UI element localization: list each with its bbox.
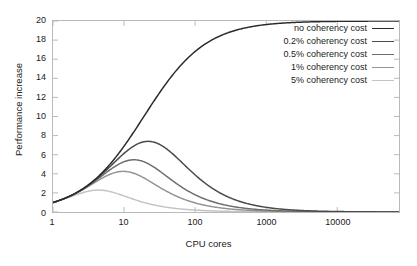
chart-legend: no coherency cost0.2% coherency cost0.5%… xyxy=(246,22,394,87)
series-line xyxy=(53,160,399,212)
y-tick-label: 0 xyxy=(0,209,46,218)
legend-item-label: 5% coherency cost xyxy=(291,76,367,85)
legend-item-swatch xyxy=(372,24,394,33)
y-tick-label: 4 xyxy=(0,170,46,179)
legend-item-swatch xyxy=(372,37,394,46)
y-tick-label: 18 xyxy=(0,35,46,44)
legend-item-swatch xyxy=(372,63,394,72)
legend-item: 5% coherency cost xyxy=(246,74,394,87)
legend-item: 0.5% coherency cost xyxy=(246,48,394,61)
legend-item: 0.2% coherency cost xyxy=(246,35,394,48)
y-tick-label: 14 xyxy=(0,73,46,82)
x-tick-label: 10 xyxy=(103,218,143,227)
y-tick-label: 6 xyxy=(0,151,46,160)
y-tick-label: 10 xyxy=(0,112,46,121)
legend-item-label: 0.5% coherency cost xyxy=(283,50,367,59)
y-tick-label: 8 xyxy=(0,131,46,140)
legend-item: no coherency cost xyxy=(246,22,394,35)
legend-item-label: no coherency cost xyxy=(294,24,367,33)
x-axis-title: CPU cores xyxy=(0,238,417,249)
y-tick-label: 16 xyxy=(0,54,46,63)
x-tick-label: 100 xyxy=(175,218,215,227)
x-tick-label: 1 xyxy=(32,218,72,227)
x-tick-label: 1000 xyxy=(246,218,286,227)
x-tick-label: 10000 xyxy=(318,218,358,227)
legend-item-label: 0.2% coherency cost xyxy=(283,37,367,46)
y-tick-label: 2 xyxy=(0,189,46,198)
chart-container: Performance increase 02468101214161820 1… xyxy=(0,0,417,266)
legend-item: 1% coherency cost xyxy=(246,61,394,74)
legend-item-swatch xyxy=(372,76,394,85)
legend-item-label: 1% coherency cost xyxy=(291,63,367,72)
legend-item-swatch xyxy=(372,50,394,59)
y-tick-label: 12 xyxy=(0,93,46,102)
y-tick-label: 20 xyxy=(0,16,46,25)
